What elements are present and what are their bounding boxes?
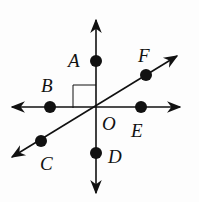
diagram-canvas: ABCDEFO — [0, 0, 199, 202]
point-label-f: F — [137, 45, 150, 66]
point-label-e: E — [130, 120, 143, 141]
point-f-dot — [140, 69, 152, 81]
right-angle-marker — [73, 85, 96, 108]
point-label-a: A — [66, 50, 80, 71]
point-label-c: C — [40, 153, 53, 174]
point-label-d: D — [107, 146, 122, 167]
point-label-o: O — [102, 113, 116, 134]
point-c-dot — [35, 135, 47, 147]
point-e-dot — [135, 101, 147, 113]
point-label-b: B — [41, 75, 53, 96]
geometry-diagram: ABCDEFO — [0, 0, 199, 202]
point-a-dot — [90, 55, 102, 67]
point-d-dot — [90, 147, 102, 159]
point-b-dot — [44, 101, 56, 113]
